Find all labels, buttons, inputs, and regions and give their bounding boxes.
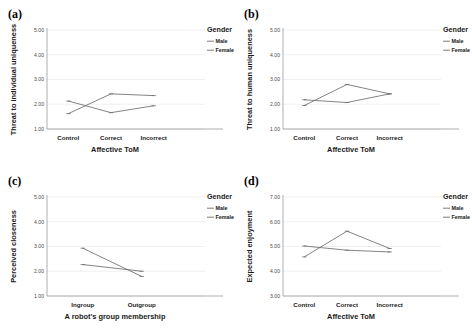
legend-entry-female: Female [452, 47, 471, 53]
y-tick-label: 3.00 [270, 76, 280, 82]
legend-title: Gender [443, 192, 468, 201]
chart-panel-d: (d)3.004.005.006.007.00Expected enjoymen… [236, 167, 472, 334]
x-tick-label: Control [293, 301, 315, 308]
y-tick-label: 4.00 [270, 52, 280, 58]
x-axis-label: A robot's group membership [65, 312, 166, 321]
y-tick-label: 7.00 [270, 194, 280, 200]
panel-tag: (c) [8, 174, 21, 188]
x-tick-label: Incorrect [376, 301, 402, 308]
legend-title: Gender [443, 25, 468, 34]
y-tick-label: 1.00 [34, 126, 44, 132]
chart-svg-c: (c)1.002.003.004.005.00Perceived closene… [0, 167, 236, 334]
legend-entry-male: Male [452, 38, 464, 44]
series-line-male [304, 94, 389, 103]
chart-svg-b: (b)1.002.003.004.005.00Threat to human u… [236, 0, 472, 167]
legend-entry-female: Female [452, 214, 471, 220]
x-tick-label: Correct [336, 134, 358, 141]
y-tick-label: 2.00 [34, 101, 44, 107]
y-tick-label: 1.00 [270, 126, 280, 132]
chart-panel-c: (c)1.002.003.004.005.00Perceived closene… [0, 167, 236, 334]
panel-tag: (b) [244, 7, 259, 21]
chart-svg-d: (d)3.004.005.006.007.00Expected enjoymen… [236, 167, 472, 334]
series-line-female [68, 94, 153, 114]
y-tick-label: 3.00 [34, 243, 44, 249]
x-axis-label: Affective ToM [327, 145, 375, 154]
legend-entry-male: Male [216, 205, 228, 211]
y-axis-label: Perceived closeness [9, 210, 18, 283]
y-tick-label: 2.00 [34, 268, 44, 274]
y-tick-label: 5.00 [34, 27, 44, 33]
y-tick-label: 4.00 [34, 52, 44, 58]
y-tick-label: 5.00 [270, 27, 280, 33]
y-tick-label: 5.00 [34, 194, 44, 200]
chart-panel-a: (a)1.002.003.004.005.00Threat to individ… [0, 0, 236, 167]
legend-entry-female: Female [216, 214, 235, 220]
legend-entry-male: Male [452, 205, 464, 211]
x-tick-label: Ingroup [71, 301, 94, 308]
y-tick-label: 3.00 [270, 293, 280, 299]
panel-tag: (a) [8, 7, 22, 21]
series-line-male [68, 101, 153, 113]
x-tick-label: Control [293, 134, 315, 141]
y-axis-label: Expected enjoyment [245, 210, 254, 282]
legend-entry-female: Female [216, 47, 235, 53]
legend-entry-male: Male [216, 38, 228, 44]
chart-panel-b: (b)1.002.003.004.005.00Threat to human u… [236, 0, 472, 167]
y-tick-label: 4.00 [34, 219, 44, 225]
panel-tag: (d) [244, 174, 259, 188]
x-axis-label: Affective ToM [91, 145, 139, 154]
y-tick-label: 4.00 [270, 268, 280, 274]
legend-title: Gender [207, 192, 232, 201]
figure-container: (a)1.002.003.004.005.00Threat to individ… [0, 0, 472, 335]
x-tick-label: Control [57, 134, 79, 141]
series-line-female [304, 231, 389, 257]
chart-svg-a: (a)1.002.003.004.005.00Threat to individ… [0, 0, 236, 167]
legend-title: Gender [207, 25, 232, 34]
x-tick-label: Incorrect [140, 134, 166, 141]
x-tick-label: Incorrect [376, 134, 402, 141]
x-tick-label: Correct [336, 301, 358, 308]
y-axis-label: Threat to human uniqueness [245, 29, 254, 130]
x-tick-label: Correct [100, 134, 122, 141]
y-tick-label: 5.00 [270, 243, 280, 249]
y-axis-label: Threat to individual uniqueness [9, 24, 18, 135]
y-tick-label: 6.00 [270, 219, 280, 225]
x-axis-label: Affective ToM [327, 312, 375, 321]
x-tick-label: Outgroup [128, 301, 156, 308]
y-tick-label: 1.00 [34, 293, 44, 299]
y-tick-label: 3.00 [34, 76, 44, 82]
y-tick-label: 2.00 [270, 101, 280, 107]
series-line-male [83, 265, 142, 272]
series-line-female [83, 248, 142, 276]
